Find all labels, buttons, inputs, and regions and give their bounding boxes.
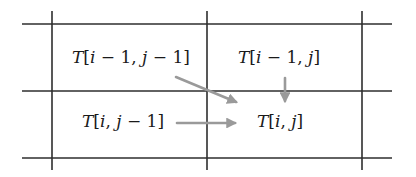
label-bracket: [ — [249, 47, 256, 67]
cell-label-bottom-right: T[i, j] — [257, 113, 303, 130]
label-symbol: T — [238, 47, 249, 67]
label-end: ] — [313, 47, 320, 67]
label-end: − 1] — [147, 47, 190, 67]
cell-label-bottom-left: T[i, j − 1] — [82, 113, 164, 130]
cell-label-top-left: T[i − 1, j − 1] — [72, 49, 190, 66]
label-sep: , — [280, 111, 291, 131]
label-symbol: T — [82, 111, 93, 131]
cell-label-top-right: T[i − 1, j] — [238, 49, 320, 66]
label-symbol: T — [72, 47, 83, 67]
label-sep: , — [105, 111, 116, 131]
label-bracket: [ — [83, 47, 90, 67]
label-symbol: T — [257, 111, 268, 131]
label-bracket: [ — [268, 111, 275, 131]
dp-table-diagram — [0, 0, 416, 177]
label-sep: − 1, — [95, 47, 142, 67]
label-sep: − 1, — [261, 47, 308, 67]
label-bracket: [ — [93, 111, 100, 131]
label-end: ] — [297, 111, 304, 131]
label-end: − 1] — [122, 111, 165, 131]
diagonal-arrow — [176, 77, 236, 102]
